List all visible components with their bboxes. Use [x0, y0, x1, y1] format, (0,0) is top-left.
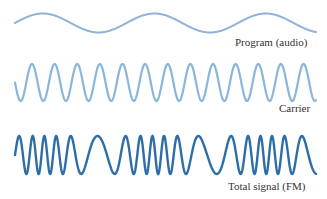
program-audio-wave — [15, 14, 316, 33]
program-audio-label: Program (audio) — [235, 36, 307, 48]
fm-total-signal-wave — [15, 136, 316, 174]
carrier-label: Carrier — [279, 102, 310, 114]
fm-modulation-diagram: Program (audio) Carrier Total signal (FM… — [0, 0, 327, 199]
total-signal-label: Total signal (FM) — [228, 180, 305, 192]
carrier-wave — [15, 64, 316, 101]
waveform-canvas — [0, 0, 327, 199]
